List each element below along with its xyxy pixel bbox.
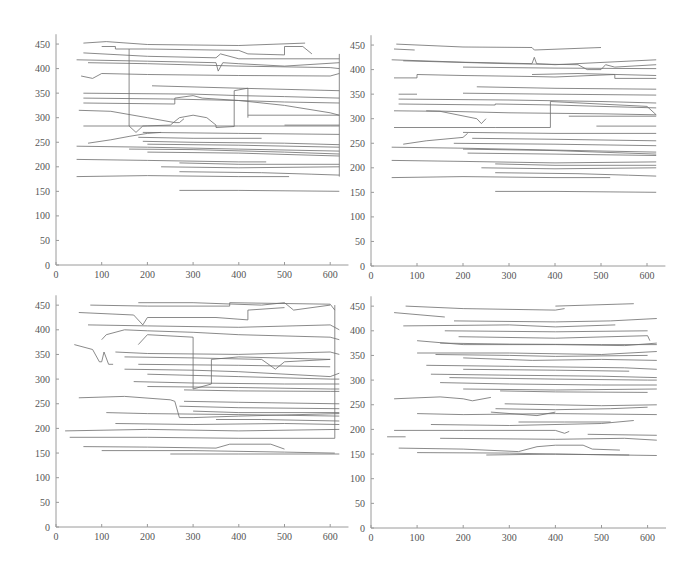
x-tick-label: 600 bbox=[640, 270, 655, 281]
trajectory-line bbox=[477, 87, 656, 89]
y-tick-label: 350 bbox=[35, 88, 50, 99]
y-tick-label: 250 bbox=[35, 398, 50, 409]
y-tick-label: 200 bbox=[35, 161, 50, 172]
trajectory-line bbox=[417, 352, 657, 355]
y-tick-label: 400 bbox=[350, 64, 365, 75]
trajectory-line bbox=[445, 331, 648, 332]
x-tick-label: 600 bbox=[323, 269, 338, 280]
trajectory-line bbox=[83, 444, 284, 449]
trajectory-line bbox=[79, 110, 184, 122]
trajectory-line bbox=[125, 369, 340, 376]
y-tick-label: 100 bbox=[350, 211, 365, 222]
x-tick-label: 100 bbox=[94, 269, 109, 280]
trajectory-line bbox=[216, 420, 339, 422]
y-tick-label: 100 bbox=[35, 210, 50, 221]
x-tick-label: 400 bbox=[231, 531, 246, 542]
trajectory-line bbox=[495, 191, 656, 192]
x-tick-label: 200 bbox=[140, 531, 155, 542]
x-tick-label: 200 bbox=[140, 269, 155, 280]
x-tick-label: 600 bbox=[323, 531, 338, 542]
x-tick-label: 300 bbox=[502, 532, 517, 543]
trajectory-line bbox=[481, 168, 656, 169]
trajectory-line bbox=[399, 99, 657, 103]
trajectory-line bbox=[83, 42, 305, 46]
trajectory-line bbox=[399, 445, 620, 451]
y-tick-label: 150 bbox=[35, 448, 50, 459]
trajectory-line bbox=[394, 111, 486, 124]
trajectory-line bbox=[134, 382, 340, 384]
axes: 0501001502002503003504004500100200300400… bbox=[35, 34, 348, 280]
trajectory-line bbox=[143, 132, 339, 134]
panel-bottom-left: 0501001502002503003504004500100200300400… bbox=[35, 295, 348, 542]
trajectory-line bbox=[115, 352, 339, 354]
trajectory-line bbox=[184, 390, 339, 392]
trajectories bbox=[77, 42, 340, 192]
trajectory-line bbox=[403, 325, 615, 327]
x-tick-label: 0 bbox=[369, 270, 374, 281]
y-tick-label: 0 bbox=[45, 522, 50, 533]
y-tick-label: 250 bbox=[35, 137, 50, 148]
axes: 0501001502002503003504004500100200300400… bbox=[350, 296, 666, 543]
trajectory-line bbox=[463, 389, 657, 390]
trajectory-line bbox=[394, 313, 445, 317]
trajectory-line bbox=[431, 374, 657, 377]
trajectory-line bbox=[65, 429, 339, 431]
trajectory-line bbox=[83, 93, 339, 98]
y-tick-label: 400 bbox=[35, 63, 50, 74]
y-tick-label: 0 bbox=[360, 261, 365, 272]
trajectory-line bbox=[115, 424, 339, 425]
trajectory-line bbox=[152, 86, 339, 91]
trajectory-figure: 0501001502002503003504004500100200300400… bbox=[0, 0, 693, 572]
trajectory-line bbox=[102, 47, 312, 55]
trajectory-line bbox=[77, 176, 290, 177]
panel-top-right: 0501001502002503003504004500100200300400… bbox=[350, 35, 665, 281]
trajectory-line bbox=[138, 137, 261, 138]
trajectory-line bbox=[184, 401, 339, 404]
trajectory-line bbox=[70, 437, 335, 438]
trajectory-line bbox=[394, 430, 569, 433]
y-tick-label: 250 bbox=[350, 138, 365, 149]
trajectory-line bbox=[138, 335, 330, 389]
y-tick-label: 300 bbox=[35, 374, 50, 385]
y-tick-label: 400 bbox=[350, 325, 365, 336]
x-tick-label: 100 bbox=[410, 532, 425, 543]
y-tick-label: 150 bbox=[350, 187, 365, 198]
y-tick-label: 50 bbox=[40, 497, 50, 508]
trajectory-line bbox=[454, 319, 657, 322]
trajectory-line bbox=[495, 164, 656, 165]
y-tick-label: 150 bbox=[350, 449, 365, 460]
trajectory-line bbox=[81, 74, 339, 79]
panel-top-left: 0501001502002503003504004500100200300400… bbox=[35, 34, 348, 280]
x-tick-label: 400 bbox=[548, 532, 563, 543]
x-tick-label: 200 bbox=[456, 532, 471, 543]
trajectory-line bbox=[463, 358, 657, 361]
x-tick-label: 500 bbox=[594, 532, 609, 543]
y-tick-label: 50 bbox=[355, 498, 365, 509]
y-tick-label: 100 bbox=[350, 473, 365, 484]
y-tick-label: 450 bbox=[35, 300, 50, 311]
trajectory-line bbox=[394, 49, 415, 50]
trajectory-line bbox=[179, 190, 339, 191]
trajectory-line bbox=[161, 167, 339, 168]
x-tick-label: 500 bbox=[594, 270, 609, 281]
trajectory-line bbox=[463, 67, 656, 69]
trajectory-line bbox=[394, 397, 491, 401]
x-tick-label: 500 bbox=[277, 531, 292, 542]
trajectory-line bbox=[392, 177, 611, 178]
trajectory-line bbox=[102, 330, 340, 340]
trajectory-line bbox=[472, 138, 656, 141]
x-tick-label: 600 bbox=[640, 532, 655, 543]
trajectory-line bbox=[77, 159, 267, 162]
trajectory-line bbox=[426, 111, 656, 115]
panel-bottom-right: 0501001502002503003504004500100200300400… bbox=[350, 296, 666, 543]
y-tick-label: 0 bbox=[45, 260, 50, 271]
trajectory-line bbox=[138, 364, 330, 367]
trajectory-line bbox=[406, 306, 565, 310]
y-tick-label: 300 bbox=[350, 375, 365, 386]
trajectory-line bbox=[459, 336, 650, 341]
x-tick-label: 400 bbox=[231, 269, 246, 280]
trajectory-line bbox=[486, 454, 629, 455]
y-tick-label: 250 bbox=[350, 399, 365, 410]
x-tick-label: 100 bbox=[410, 270, 425, 281]
trajectory-line bbox=[454, 143, 656, 145]
